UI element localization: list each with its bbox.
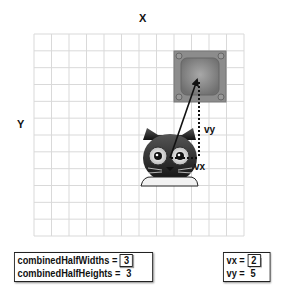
vy-row: vy = 5	[227, 267, 267, 280]
combined-half-heights-value: 3	[123, 267, 134, 280]
collision-diagram: vy vx	[0, 0, 285, 295]
combined-half-widths-value: 3	[120, 254, 133, 267]
bolt-icon	[218, 53, 224, 59]
vector-box: vx = 2 vy = 5	[223, 252, 271, 282]
vy-value: 5	[247, 267, 258, 280]
combined-half-heights-row: combinedHalfHeights = 3	[18, 267, 150, 280]
bolt-icon	[176, 53, 182, 59]
half-dimensions-box: combinedHalfWidths = 3 combinedHalfHeigh…	[14, 252, 153, 282]
vx-row-label: vx =	[227, 254, 245, 266]
combined-half-heights-label: combinedHalfHeights =	[18, 267, 121, 279]
vy-row-label: vy =	[227, 267, 245, 279]
bolt-icon	[218, 94, 224, 100]
combined-half-widths-label: combinedHalfWidths =	[18, 254, 118, 266]
bolt-icon	[176, 94, 182, 100]
vx-label: vx	[194, 161, 206, 172]
combined-half-widths-row: combinedHalfWidths = 3	[18, 254, 150, 267]
vx-row: vx = 2	[227, 254, 267, 267]
vy-label: vy	[204, 124, 216, 135]
vx-value: 2	[247, 254, 260, 267]
